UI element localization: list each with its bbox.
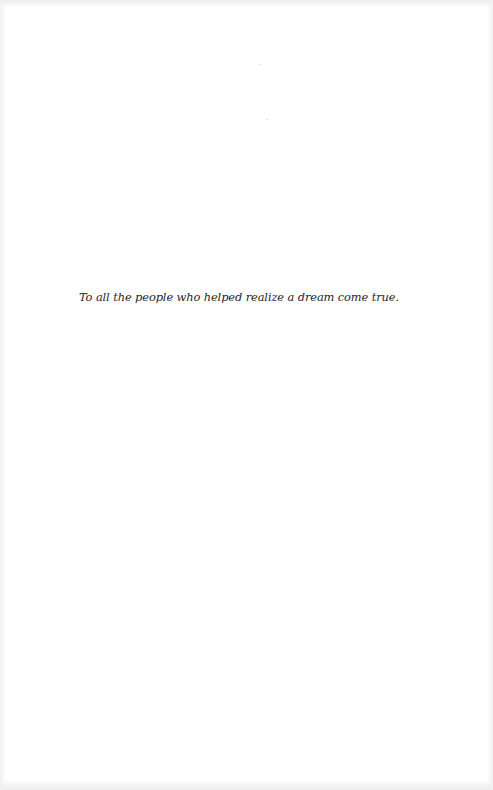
page-edge-shadow-top <box>0 0 493 8</box>
dedication-text: To all the people who helped realize a d… <box>79 289 379 305</box>
scan-speck <box>259 64 261 65</box>
book-page: To all the people who helped realize a d… <box>0 0 493 790</box>
page-edge-shadow-right <box>487 0 493 790</box>
scan-speck <box>266 119 268 120</box>
page-edge-shadow-left <box>0 0 6 790</box>
page-edge-shadow-bottom <box>0 780 493 790</box>
